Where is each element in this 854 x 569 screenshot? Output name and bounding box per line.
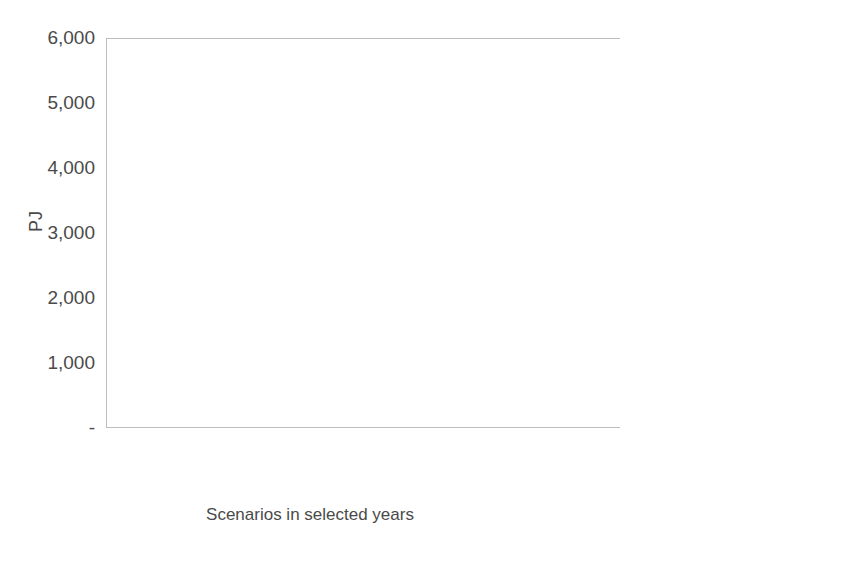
x-axis-title: Scenarios in selected years (0, 505, 620, 525)
y-tick-4000: 4,000 (47, 158, 95, 177)
y-tick-2000: 2,000 (47, 288, 95, 307)
y-tick-0: - (89, 418, 95, 437)
y-axis: 6,000 5,000 4,000 3,000 2,000 1,000 - (10, 0, 95, 569)
plot-area (106, 38, 620, 428)
bars-layer (107, 39, 620, 427)
stacked-bar-chart: 6,000 5,000 4,000 3,000 2,000 1,000 - PJ… (0, 0, 854, 569)
y-axis-title: PJ (26, 211, 47, 232)
y-tick-1000: 1,000 (47, 353, 95, 372)
y-tick-5000: 5,000 (47, 93, 95, 112)
y-tick-6000: 6,000 (47, 28, 95, 47)
y-tick-3000: 3,000 (47, 223, 95, 242)
